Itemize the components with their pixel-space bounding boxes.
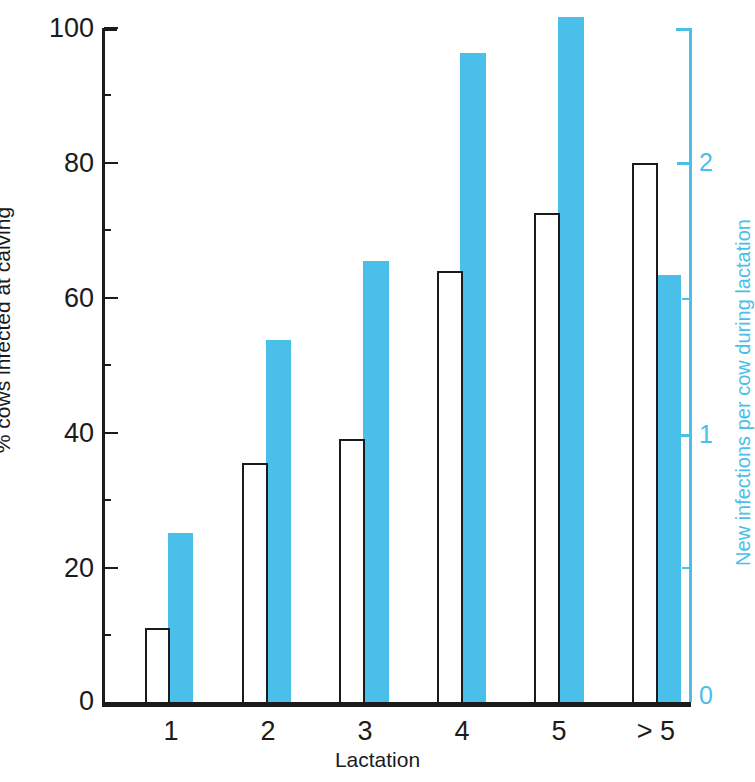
right-minor-tick-1-5 <box>682 298 690 300</box>
right-minor-tick-0-5 <box>682 567 690 569</box>
x-axis-line <box>102 702 691 707</box>
bar-white-lactation-2 <box>242 463 268 702</box>
plot-area <box>104 28 688 702</box>
left-axis-title: % cows infected at calving <box>0 90 15 570</box>
bar-blue-lactation-4 <box>460 53 486 702</box>
bar-blue-lactation-5 <box>558 17 584 702</box>
x-tick-label-1: 1 <box>131 716 211 747</box>
bar-white-lactation-gt5 <box>632 163 658 702</box>
x-tick-label-4: 4 <box>422 716 502 747</box>
right-axis-top-cap <box>676 28 692 31</box>
bar-blue-lactation-3 <box>363 261 389 702</box>
left-tick-label-0: 0 <box>24 688 94 715</box>
x-tick-label-3: 3 <box>325 716 405 747</box>
right-tick-label-0: 0 <box>699 683 713 708</box>
bar-blue-lactation-gt5 <box>655 275 681 702</box>
left-tick-label-100: 100 <box>24 15 94 42</box>
x-tick-label-2: 2 <box>228 716 308 747</box>
right-tick-2 <box>677 162 690 165</box>
bar-white-lactation-5 <box>534 213 560 702</box>
bar-blue-lactation-1 <box>168 533 193 702</box>
left-tick-label-40: 40 <box>24 420 94 447</box>
bar-blue-lactation-2 <box>266 340 291 702</box>
right-tick-label-2: 2 <box>699 150 713 175</box>
left-tick-label-20: 20 <box>24 555 94 582</box>
x-tick-label-gt5: > 5 <box>616 716 696 747</box>
bar-white-lactation-3 <box>339 439 365 702</box>
bar-white-lactation-1 <box>145 628 170 702</box>
right-tick-label-1: 1 <box>699 422 713 447</box>
x-axis-title: Lactation <box>0 748 755 772</box>
left-tick-label-60: 60 <box>24 285 94 312</box>
right-axis-line <box>689 28 692 702</box>
bar-chart-figure: 100 80 60 40 20 0 % cows infected at cal… <box>0 0 755 782</box>
bar-white-lactation-4 <box>437 271 463 702</box>
left-tick-label-80: 80 <box>24 150 94 177</box>
right-axis-title: New infections per cow during lactation <box>732 143 755 643</box>
x-tick-label-5: 5 <box>519 716 599 747</box>
